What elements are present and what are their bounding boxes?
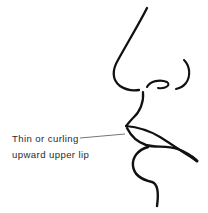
chin [133,147,158,206]
nostril [147,81,168,89]
nose-outline [114,8,147,90]
face-profile-diagram: Thin or curling upward upper lip [0,0,208,213]
philtrum [126,92,143,126]
annotation-label: Thin or curling upward upper lip [12,131,89,163]
annotation-line-2: upward upper lip [12,147,89,163]
annotation-line-1: Thin or curling [12,131,89,147]
lower-lip [127,128,196,160]
nose-ala [176,60,189,89]
face-profile-drawing [0,0,208,213]
